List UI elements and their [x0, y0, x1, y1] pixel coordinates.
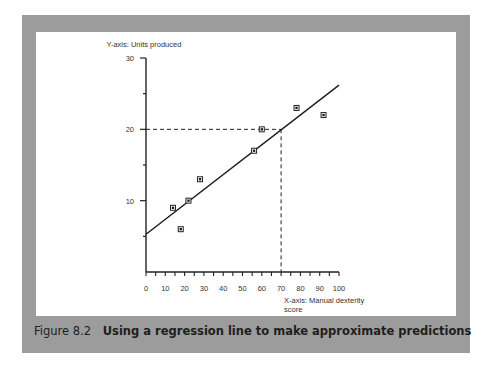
- x-tick-label: 0: [144, 284, 148, 293]
- data-point-center: [253, 150, 255, 152]
- data-point-center: [261, 128, 263, 130]
- data-point-center: [295, 107, 297, 109]
- x-tick-label: 90: [316, 284, 324, 293]
- regression-line: [146, 85, 339, 234]
- x-tick-label: 80: [296, 284, 304, 293]
- y-axis-title: Y-axis: Units produced: [107, 40, 182, 49]
- x-axis-title: score: [284, 305, 302, 314]
- data-point-center: [172, 207, 174, 209]
- axes: 1020300102030405060708090100: [126, 54, 346, 293]
- x-tick-label: 60: [258, 284, 266, 293]
- x-tick-label: 10: [161, 284, 169, 293]
- y-tick-label: 10: [126, 197, 134, 206]
- x-axis-label: X-axis: Manual dexterityscore: [284, 296, 364, 314]
- dashed-guides: [146, 129, 281, 272]
- y-axis-label: Y-axis: Units produced: [107, 40, 182, 49]
- data-point-center: [199, 178, 201, 180]
- data-point-center: [187, 199, 189, 201]
- x-tick-label: 100: [333, 284, 346, 293]
- y-tick-label: 30: [126, 54, 134, 63]
- regression-line-segment: [146, 85, 339, 234]
- x-tick-label: 70: [277, 284, 285, 293]
- x-axis-title: X-axis: Manual dexterity: [284, 296, 364, 305]
- data-point-center: [322, 114, 324, 116]
- data-points: [171, 105, 327, 231]
- y-tick-label: 20: [126, 125, 134, 134]
- x-tick-label: 50: [238, 284, 246, 293]
- x-tick-label: 30: [200, 284, 208, 293]
- data-point-center: [180, 228, 182, 230]
- x-tick-label: 40: [219, 284, 227, 293]
- scatter-chart: Y-axis: Units produced 10203001020304050…: [0, 0, 492, 365]
- x-tick-label: 20: [180, 284, 188, 293]
